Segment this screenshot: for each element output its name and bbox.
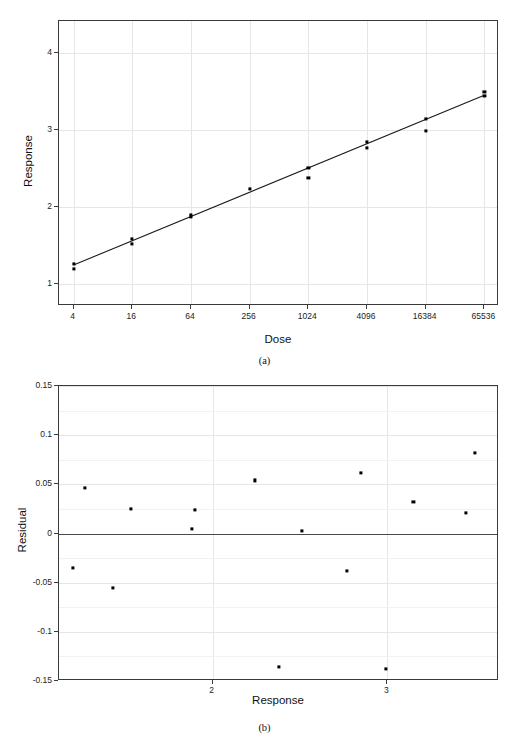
x-tick-label: 4 — [70, 311, 75, 321]
y-tick-label: 2 — [32, 201, 52, 211]
data-point — [424, 117, 427, 120]
zero-reference-line — [59, 534, 497, 536]
data-point — [483, 90, 486, 93]
gridline-vertical — [191, 21, 192, 304]
x-tick-mark — [366, 305, 367, 309]
x-tick-mark — [131, 305, 132, 309]
y-tick-mark — [54, 129, 58, 130]
data-point — [473, 451, 476, 454]
gridline-minor — [59, 411, 497, 412]
data-point — [131, 242, 134, 245]
data-point — [277, 666, 280, 669]
x-axis-title-a: Dose — [58, 333, 498, 345]
y-tick-mark — [54, 434, 58, 435]
x-tick-label: 16384 — [413, 311, 437, 321]
gridline-vertical — [250, 21, 251, 304]
data-point — [346, 569, 349, 572]
x-tick-mark — [425, 305, 426, 309]
gridline-minor — [59, 558, 497, 559]
data-point — [307, 177, 310, 180]
data-point — [359, 471, 362, 474]
x-tick-label: 256 — [242, 311, 256, 321]
gridline-horizontal — [59, 583, 497, 584]
gridline-vertical — [213, 386, 214, 679]
gridline-minor — [59, 509, 497, 510]
plot-area-b — [58, 385, 498, 680]
data-point — [194, 508, 197, 511]
data-point — [412, 500, 415, 503]
gridline-horizontal — [59, 53, 497, 54]
plot-area-a — [58, 20, 498, 305]
x-axis-title-b: Response — [58, 694, 498, 706]
gridline-horizontal — [59, 386, 497, 387]
y-tick-label: 4 — [32, 47, 52, 57]
panel-b: 23 0.150.10.050-0.05-0.1-0.15 Response R… — [0, 374, 529, 746]
figure-container: 41664256102440961638465536 1234 Dose Res… — [0, 0, 529, 746]
x-tick-mark — [386, 680, 387, 684]
y-tick-mark — [54, 483, 58, 484]
gridline-horizontal — [59, 435, 497, 436]
panel-a: 41664256102440961638465536 1234 Dose Res… — [0, 0, 529, 374]
regression-line — [59, 21, 497, 304]
data-point — [189, 215, 192, 218]
gridline-vertical — [308, 21, 309, 304]
data-point — [131, 237, 134, 240]
gridline-vertical — [132, 21, 133, 304]
y-tick-label: -0.15 — [22, 675, 52, 685]
gridline-minor — [59, 460, 497, 461]
y-tick-mark — [54, 533, 58, 534]
x-tick-mark — [73, 305, 74, 309]
y-tick-label: 3 — [32, 124, 52, 134]
data-point — [112, 586, 115, 589]
gridline-horizontal — [59, 207, 497, 208]
gridline-horizontal — [59, 284, 497, 285]
gridline-vertical — [426, 21, 427, 304]
x-tick-mark — [190, 305, 191, 309]
panel-caption-b: (b) — [0, 722, 529, 733]
y-tick-mark — [54, 385, 58, 386]
x-tick-mark — [212, 680, 213, 684]
gridline-minor — [59, 607, 497, 608]
y-tick-mark — [54, 283, 58, 284]
data-point — [424, 130, 427, 133]
y-tick-mark — [54, 582, 58, 583]
gridline-horizontal — [59, 632, 497, 633]
x-tick-label: 16 — [127, 311, 136, 321]
y-tick-label: -0.1 — [22, 626, 52, 636]
fit-line-segment — [74, 96, 483, 265]
data-point — [190, 527, 193, 530]
data-point — [384, 668, 387, 671]
data-point — [253, 479, 256, 482]
data-point — [248, 187, 251, 190]
y-axis-title-b: Residual — [16, 480, 28, 580]
gridline-minor — [59, 656, 497, 657]
x-tick-mark — [249, 305, 250, 309]
panel-caption-a: (a) — [0, 355, 529, 366]
y-tick-mark — [54, 206, 58, 207]
x-tick-mark — [483, 305, 484, 309]
gridline-vertical — [367, 21, 368, 304]
y-tick-mark — [54, 52, 58, 53]
x-tick-label: 4096 — [357, 311, 376, 321]
gridline-vertical — [387, 386, 388, 679]
data-point — [300, 529, 303, 532]
data-point — [72, 262, 75, 265]
data-point — [129, 507, 132, 510]
gridline-horizontal — [59, 484, 497, 485]
data-point — [72, 267, 75, 270]
data-point — [71, 566, 74, 569]
y-tick-mark — [54, 631, 58, 632]
data-point — [84, 487, 87, 490]
y-tick-label: 0.1 — [22, 429, 52, 439]
x-tick-mark — [307, 305, 308, 309]
x-tick-label: 65536 — [472, 311, 496, 321]
gridline-horizontal — [59, 130, 497, 131]
y-tick-label: 0.15 — [22, 380, 52, 390]
y-tick-label: 1 — [32, 278, 52, 288]
data-point — [483, 94, 486, 97]
gridline-vertical — [484, 21, 485, 304]
y-tick-mark — [54, 680, 58, 681]
x-tick-label: 1024 — [298, 311, 317, 321]
x-tick-label: 64 — [185, 311, 194, 321]
data-point — [464, 511, 467, 514]
